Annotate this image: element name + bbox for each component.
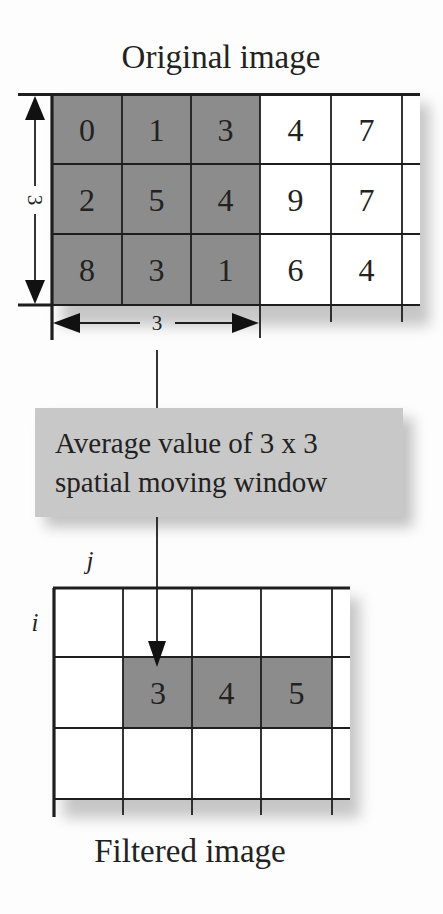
grid-cell: 0 [79,112,95,148]
operation-text-line2: spatial moving window [55,466,327,498]
grid-cell: 7 [359,182,375,218]
filtered-image-title: Filtered image [94,833,286,869]
original-image-title: Original image [122,39,321,75]
grid-cell: 1 [218,252,234,288]
arrow-down-icon [25,280,45,304]
grid-cell: 4 [288,112,304,148]
grid-cell: 2 [79,182,95,218]
grid-cell: 3 [218,112,234,148]
window-height-dimension: 3 [23,96,47,304]
operation-box-background [35,408,403,517]
grid-cell: 6 [288,252,304,288]
grid-cell: 8 [79,252,95,288]
grid-cell: 3 [149,252,165,288]
filtered-cell: 4 [219,675,235,711]
grid-cell: 4 [218,182,234,218]
grid-cell: 5 [149,182,165,218]
filtered-cell: 3 [150,675,166,711]
window-height-label: 3 [23,195,47,206]
window-width-label: 3 [152,311,163,335]
grid-cell: 4 [359,252,375,288]
filtered-image-grid: 3 4 5 [53,588,360,818]
arrow-up-icon [25,96,45,120]
grid-cell: 9 [288,182,304,218]
operation-text-line1: Average value of 3 x 3 [55,427,318,459]
operation-box: Average value of 3 x 3 spatial moving wi… [35,408,413,527]
axis-label-j: j [84,547,94,574]
grid-cell: 1 [149,112,165,148]
filtered-cell: 5 [289,675,305,711]
axis-label-i: i [32,609,39,636]
grid-cell: 7 [359,112,375,148]
original-image-grid: 0 1 3 4 7 2 5 4 9 7 8 3 1 6 4 [18,95,430,341]
moving-window-diagram: Original image 0 1 3 4 7 2 5 4 9 [0,0,443,914]
